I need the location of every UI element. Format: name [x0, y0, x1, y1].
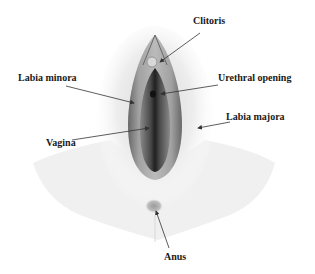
- anus-shape: [145, 199, 163, 213]
- label-labia-majora: Labia majora: [226, 112, 285, 122]
- label-labia-minora: Labia minora: [18, 73, 77, 83]
- label-clitoris: Clitoris: [193, 16, 225, 26]
- label-vagina: Vagina: [46, 138, 76, 148]
- label-anus: Anus: [164, 252, 186, 262]
- label-urethral-opening: Urethral opening: [218, 73, 291, 83]
- urethral-opening-shape: [150, 91, 156, 98]
- clitoris-shape: [147, 57, 157, 67]
